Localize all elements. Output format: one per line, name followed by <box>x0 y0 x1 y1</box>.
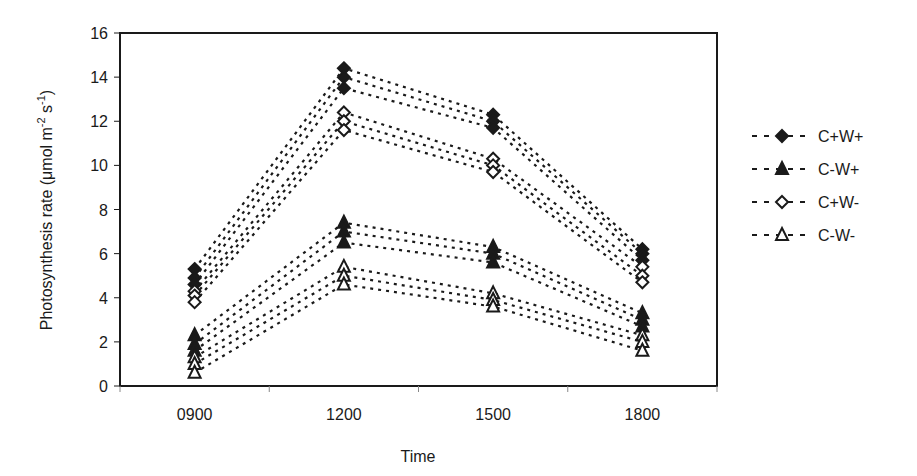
x-axis-title: Time <box>401 448 436 465</box>
legend-label: C+W+ <box>818 128 863 145</box>
y-axis: 0246810121416 <box>90 25 120 395</box>
legend-open-diamond-icon <box>776 196 788 208</box>
legend-label: C-W+ <box>818 161 859 178</box>
legend-filled-diamond-icon <box>776 130 788 142</box>
x-axis: 0900120015001800 <box>120 386 717 423</box>
legend-item: C+W+ <box>752 128 863 145</box>
y-tick-label: 16 <box>90 25 108 42</box>
plot-series-markers <box>189 62 649 377</box>
open-diamond-marker-icon <box>338 124 350 136</box>
y-tick-label: 0 <box>99 378 108 395</box>
series-cpwm-mean-line <box>195 121 643 295</box>
series-cpwm-upper-line <box>195 112 643 291</box>
photosynthesis-chart: 0246810121416 0900120015001800 Time Phot… <box>0 0 917 476</box>
plot-series-lines <box>195 68 643 372</box>
legend-item: C-W- <box>752 227 855 244</box>
y-tick-label: 4 <box>99 290 108 307</box>
series-cmwm-mean-line <box>195 276 643 364</box>
y-tick-label: 6 <box>99 246 108 263</box>
legend-label: C+W- <box>818 194 859 211</box>
x-tick-label: 1800 <box>625 406 661 423</box>
x-tick-label: 1500 <box>475 406 511 423</box>
legend: C+W+C-W+C+W-C-W- <box>752 128 863 244</box>
y-tick-label: 14 <box>90 69 108 86</box>
y-axis-title: Photosynthesis rate (μmol m-2 s-1) <box>35 90 55 330</box>
legend-item: C+W- <box>752 194 859 211</box>
legend-label: C-W- <box>818 227 855 244</box>
y-tick-label: 12 <box>90 113 108 130</box>
y-tick-label: 8 <box>99 202 108 219</box>
x-tick-label: 0900 <box>177 406 213 423</box>
x-tick-label: 1200 <box>326 406 362 423</box>
series-cmwm-upper-line <box>195 267 643 357</box>
y-tick-label: 2 <box>99 334 108 351</box>
series-cpwp-upper-line <box>195 68 643 269</box>
y-tick-label: 10 <box>90 157 108 174</box>
legend-item: C-W+ <box>752 161 859 178</box>
